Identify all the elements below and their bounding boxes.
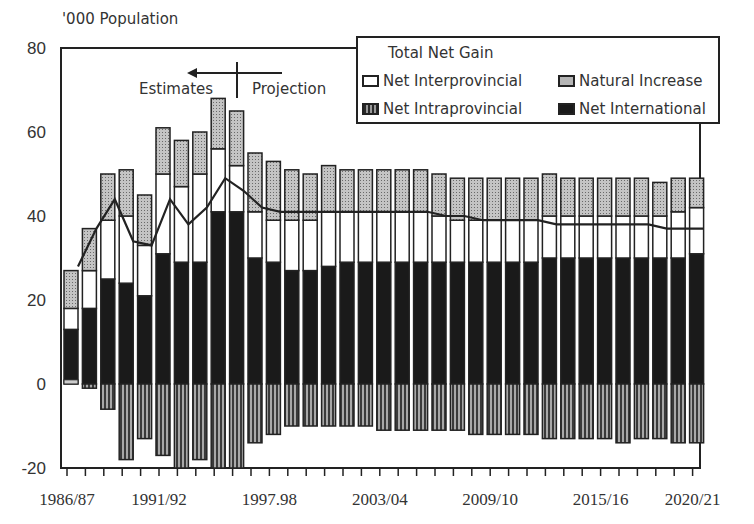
bar-negative — [432, 384, 446, 430]
bar-segment — [119, 170, 133, 216]
black-swatch-icon — [558, 103, 575, 115]
bar-segment — [377, 212, 391, 262]
bar-segment — [174, 262, 188, 384]
bar-segment — [579, 216, 593, 258]
bar-segment — [322, 266, 336, 384]
bar-segment — [414, 262, 428, 384]
bar-segment — [211, 212, 225, 384]
bar-negative — [156, 384, 170, 455]
bar-segment — [193, 132, 207, 174]
bar-segment — [340, 170, 354, 212]
bar-negative — [285, 384, 299, 426]
bar-segment — [156, 128, 170, 174]
svg-text:2009/10: 2009/10 — [462, 490, 518, 509]
bar-segment — [561, 258, 575, 384]
bar-segment — [671, 178, 685, 212]
svg-text:60: 60 — [27, 123, 46, 142]
bar-segment — [487, 262, 501, 384]
bar-segment — [303, 220, 317, 270]
bar-segment — [450, 220, 464, 262]
bar-segment — [303, 271, 317, 384]
bar-segment — [616, 216, 630, 258]
bar-segment — [303, 174, 317, 220]
bar-segment — [174, 140, 188, 186]
svg-text:1997.98: 1997.98 — [242, 490, 297, 509]
bar-segment — [340, 212, 354, 262]
bar-negative — [616, 384, 630, 443]
svg-text:1991/92: 1991/92 — [131, 490, 187, 509]
bar-segment — [616, 178, 630, 216]
bar-negative — [322, 384, 336, 426]
bar-negative — [395, 384, 409, 430]
bar-segment — [285, 271, 299, 384]
bar-segment — [579, 258, 593, 384]
bar-segment — [138, 195, 152, 245]
bar-segment — [174, 187, 188, 263]
bar-segment — [671, 212, 685, 258]
bars — [64, 98, 704, 468]
bar-negative — [101, 384, 115, 409]
bar-segment — [432, 262, 446, 384]
svg-text:40: 40 — [27, 207, 46, 226]
bar-segment — [634, 178, 648, 216]
bar-negative — [358, 384, 372, 426]
bar-segment — [450, 262, 464, 384]
bar-segment — [598, 258, 612, 384]
bar-negative — [450, 384, 464, 430]
bar-segment — [64, 271, 78, 309]
bar-segment — [395, 212, 409, 262]
svg-text:20: 20 — [27, 291, 46, 310]
bar-segment — [487, 220, 501, 262]
bar-segment — [82, 308, 96, 384]
bar-segment — [64, 308, 78, 329]
bar-segment — [138, 245, 152, 295]
projection-label: Projection — [252, 80, 326, 98]
bar-negative — [414, 384, 428, 430]
bar-segment — [414, 170, 428, 212]
bar-segment — [285, 220, 299, 270]
bar-negative — [340, 384, 354, 426]
bar-segment — [248, 212, 262, 258]
bar-segment — [690, 254, 704, 384]
bar-segment — [690, 208, 704, 254]
bar-negative — [542, 384, 556, 439]
bar-segment — [616, 258, 630, 384]
bar-negative — [653, 384, 667, 439]
bar-negative — [303, 384, 317, 426]
bar-segment — [230, 111, 244, 166]
bar-segment — [469, 178, 483, 220]
bar-segment — [377, 170, 391, 212]
bar-negative — [119, 384, 133, 460]
bar-segment — [432, 174, 446, 216]
bar-negative — [561, 384, 575, 439]
bar-segment — [340, 262, 354, 384]
bar-segment — [266, 262, 280, 384]
bar-negative — [634, 384, 648, 439]
bar-segment — [101, 174, 115, 220]
bar-segment — [82, 271, 96, 309]
bar-segment — [561, 178, 575, 216]
bar-segment — [101, 279, 115, 384]
svg-text:2020/21: 2020/21 — [665, 490, 721, 509]
bar-negative — [524, 384, 538, 434]
bar-segment — [322, 212, 336, 267]
bar-segment — [653, 182, 667, 216]
legend-item-natural-increase: Natural Increase — [558, 72, 703, 90]
bar-segment — [358, 262, 372, 384]
bar-segment — [248, 258, 262, 384]
bar-negative — [266, 384, 280, 434]
hatched-swatch-icon — [362, 103, 379, 115]
bar-segment — [138, 296, 152, 384]
bar-negative — [377, 384, 391, 430]
bar-segment — [653, 216, 667, 258]
bar-segment — [634, 216, 648, 258]
bar-segment — [671, 258, 685, 384]
bar-segment — [524, 262, 538, 384]
bar-negative — [193, 384, 207, 460]
bar-segment — [395, 262, 409, 384]
bar-segment — [469, 262, 483, 384]
bar-segment — [487, 178, 501, 220]
bar-negative — [138, 384, 152, 439]
bar-negative — [174, 384, 188, 468]
bar-segment — [266, 220, 280, 262]
